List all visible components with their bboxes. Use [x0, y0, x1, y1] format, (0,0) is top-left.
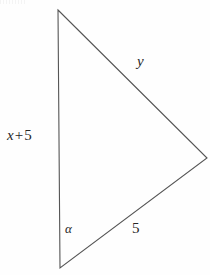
label-variable-x: x: [7, 127, 14, 143]
label-number-5: 5: [24, 127, 32, 143]
label-side-x-plus-5: x+5: [7, 128, 32, 143]
label-angle-alpha: α: [65, 222, 72, 235]
triangle-diagram: x+5 y α 5: [0, 0, 210, 275]
label-operator-plus: +: [14, 127, 24, 143]
label-side-5: 5: [132, 221, 140, 236]
label-side-y: y: [137, 54, 144, 69]
